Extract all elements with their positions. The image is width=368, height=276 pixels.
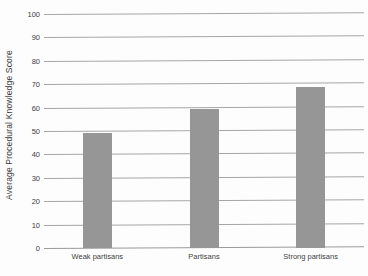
x-axis-tick-label: Partisans	[188, 252, 219, 261]
bar	[296, 87, 325, 248]
x-axis-tick-label: Strong partisans	[283, 252, 338, 261]
bar	[190, 109, 219, 248]
gridline	[44, 12, 364, 15]
x-axis-tick-label: Weak partisans	[72, 252, 124, 261]
y-axis-title: Average Procedural Knowledge Score	[2, 2, 16, 248]
bar-chart: Average Procedural Knowledge Score 01020…	[0, 0, 368, 276]
y-axis-tick-label: 40	[18, 150, 40, 159]
y-axis-tick-label: 20	[18, 197, 40, 206]
y-axis-tick-label: 70	[18, 80, 40, 89]
gridline	[44, 59, 364, 62]
y-axis-tick-labels: 0102030405060708090100	[18, 0, 40, 276]
y-axis-tick-label: 50	[18, 127, 40, 136]
y-axis-tick-label: 80	[18, 56, 40, 65]
plot-area	[44, 14, 364, 248]
y-axis-tick-label: 90	[18, 33, 40, 42]
y-axis-tick-label: 30	[18, 173, 40, 182]
y-axis-tick-label: 100	[18, 10, 40, 19]
y-axis-tick-label: 10	[18, 220, 40, 229]
bar	[83, 133, 112, 248]
gridline	[44, 83, 364, 86]
gridline	[44, 36, 364, 39]
y-axis-tick-label: 0	[18, 244, 40, 253]
y-axis-tick-label: 60	[18, 103, 40, 112]
x-axis-tick-labels: Weak partisansPartisansStrong partisans	[44, 252, 364, 268]
